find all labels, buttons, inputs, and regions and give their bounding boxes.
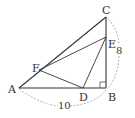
label-b: B	[108, 91, 116, 104]
geometry-diagram: C E F A D B 10 8	[0, 0, 135, 118]
segment-fd	[39, 70, 83, 88]
label-f: F	[32, 62, 40, 75]
label-d: D	[79, 91, 88, 104]
label-c: C	[102, 4, 110, 17]
segment-de	[83, 37, 106, 88]
dimension-ab: 10	[58, 100, 71, 111]
dimension-bc: 8	[116, 45, 122, 56]
label-a: A	[7, 83, 17, 96]
segment-fe	[39, 37, 106, 70]
label-e: E	[108, 38, 116, 51]
right-angle-mark	[100, 82, 106, 88]
segment-ac	[19, 17, 106, 88]
